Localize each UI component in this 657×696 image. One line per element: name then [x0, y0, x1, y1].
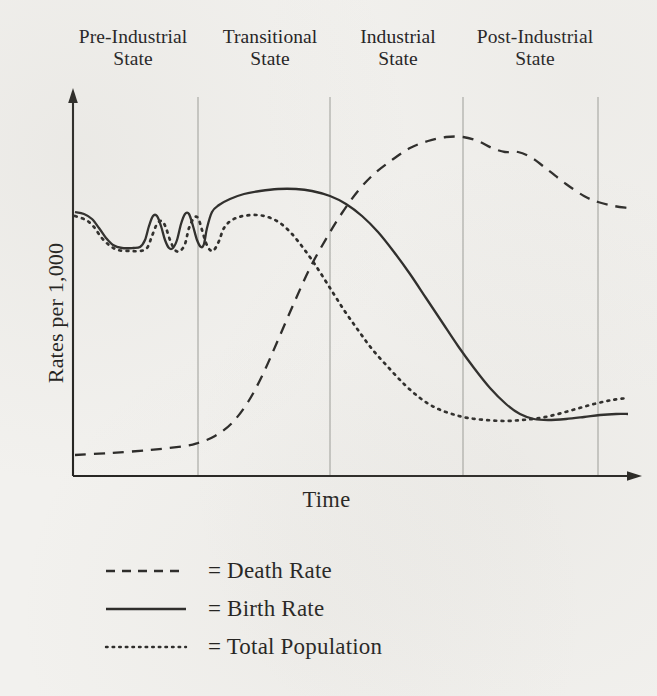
legend-item-total-population: = Total Population [104, 628, 524, 666]
legend-item-death-rate: = Death Rate [104, 552, 524, 590]
legend: = Death Rate = Birth Rate = Total Popula… [104, 552, 524, 666]
legend-label-death-rate: = Death Rate [208, 558, 332, 584]
x-axis-title: Time [0, 487, 657, 513]
y-axis-arrowhead [68, 88, 78, 103]
axis-group [68, 88, 642, 481]
series-line-death-rate [75, 136, 628, 455]
x-axis-title-text: Time [303, 487, 351, 513]
legend-sample-dashed-icon [104, 564, 188, 578]
x-axis-arrowhead [627, 471, 642, 481]
legend-label-birth-rate: = Birth Rate [208, 596, 324, 622]
legend-sample-dotted-icon [104, 640, 188, 654]
legend-sample-solid-icon [104, 602, 188, 616]
legend-item-birth-rate: = Birth Rate [104, 590, 524, 628]
series-line-birth-rate [75, 189, 628, 420]
series-group [75, 136, 628, 455]
legend-label-total-population: = Total Population [208, 634, 382, 660]
plot-area [0, 0, 657, 530]
demographic-transition-figure: Pre-Industrial State Transitional State … [0, 0, 657, 696]
series-line-total-population [75, 215, 628, 421]
